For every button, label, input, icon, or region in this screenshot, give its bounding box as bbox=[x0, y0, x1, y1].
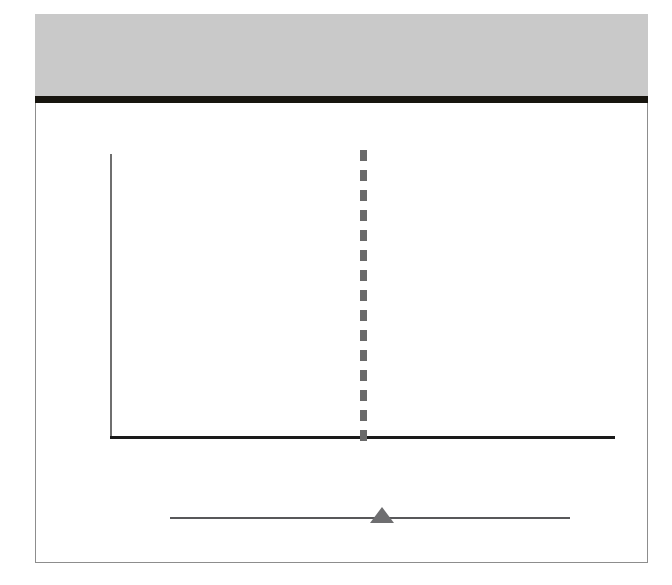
mean-scale-row bbox=[110, 505, 610, 555]
y-axis-line bbox=[110, 154, 112, 438]
header-divider-rule bbox=[35, 96, 648, 103]
title-band bbox=[35, 14, 648, 96]
chart-figure bbox=[0, 0, 672, 585]
agree-disagree-divider-icon bbox=[360, 150, 367, 442]
mean-triangle-marker-icon bbox=[370, 507, 394, 523]
